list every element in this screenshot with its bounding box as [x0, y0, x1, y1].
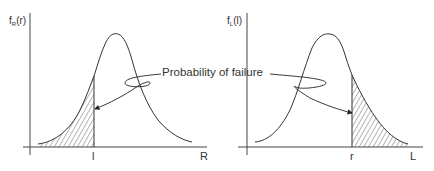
load-density-curve: [255, 34, 408, 144]
right-cutoff-label: r: [350, 151, 354, 162]
right-leader-arrow: [270, 74, 352, 113]
left-failure-region: [38, 76, 94, 147]
left-cutoff-label: l: [92, 151, 94, 162]
load-panel: [238, 13, 423, 155]
probability-of-failure-label: Probability of failure: [162, 66, 263, 78]
resistance-density-curve: [38, 34, 192, 144]
right-x-axis-label: L: [410, 151, 416, 162]
callout-leaders: [95, 74, 352, 113]
left-y-axis-label: fR(r): [9, 16, 26, 27]
left-leader-arrow: [95, 74, 161, 109]
right-y-axis-label: fL(l): [227, 16, 242, 27]
resistance-panel: [23, 13, 207, 155]
interference-diagram: [0, 0, 434, 171]
right-failure-region: [352, 75, 408, 147]
left-x-axis-label: R: [200, 151, 208, 162]
